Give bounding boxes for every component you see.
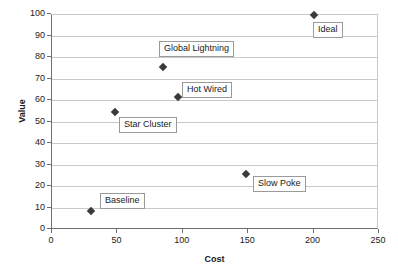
x-tick-label-100: 100 <box>162 236 202 245</box>
x-tick-label-50: 50 <box>96 236 136 245</box>
data-point-label: Star Cluster <box>119 117 177 133</box>
y-tick-mark-20 <box>47 185 51 186</box>
y-tick-label-100: 100 <box>5 9 45 18</box>
x-tick-mark-100 <box>182 229 183 233</box>
data-point-label: Hot Wired <box>182 82 232 98</box>
gridline-y-60 <box>52 100 377 101</box>
data-point-label: Baseline <box>100 193 145 209</box>
x-tick-label-200: 200 <box>293 236 333 245</box>
gridline-y-40 <box>52 143 377 144</box>
x-tick-label-0: 0 <box>31 236 71 245</box>
y-tick-mark-100 <box>47 13 51 14</box>
x-tick-mark-200 <box>313 229 314 233</box>
y-tick-label-0: 0 <box>5 224 45 233</box>
y-tick-label-90: 90 <box>5 31 45 40</box>
y-tick-label-80: 80 <box>5 52 45 61</box>
y-tick-label-20: 20 <box>5 181 45 190</box>
y-tick-mark-30 <box>47 164 51 165</box>
x-axis-title: Cost <box>51 254 378 264</box>
y-tick-mark-70 <box>47 78 51 79</box>
y-axis-title: Value <box>17 81 27 141</box>
x-tick-mark-50 <box>116 229 117 233</box>
data-point-marker <box>111 108 119 116</box>
y-tick-mark-60 <box>47 99 51 100</box>
x-tick-mark-0 <box>51 229 52 233</box>
x-tick-mark-250 <box>378 229 379 233</box>
x-tick-mark-150 <box>247 229 248 233</box>
gridline-y-70 <box>52 79 377 80</box>
gridline-y-80 <box>52 57 377 58</box>
y-tick-label-30: 30 <box>5 160 45 169</box>
data-point-label: Ideal <box>313 22 343 38</box>
y-tick-mark-50 <box>47 121 51 122</box>
data-point-label: Slow Poke <box>253 176 306 192</box>
y-tick-mark-10 <box>47 207 51 208</box>
data-point-marker <box>241 170 249 178</box>
scatter-chart: 0102030405060708090100 050100150200250 V… <box>0 0 398 276</box>
x-tick-label-150: 150 <box>227 236 267 245</box>
y-tick-mark-80 <box>47 56 51 57</box>
gridline-y-20 <box>52 186 377 187</box>
gridline-y-50 <box>52 122 377 123</box>
data-point-marker <box>159 62 167 70</box>
x-tick-label-250: 250 <box>358 236 398 245</box>
y-tick-label-10: 10 <box>5 203 45 212</box>
data-point-label: Global Lightning <box>159 41 234 57</box>
gridline-y-100 <box>52 14 377 15</box>
y-tick-mark-90 <box>47 35 51 36</box>
data-point-marker <box>309 11 317 19</box>
y-tick-mark-40 <box>47 142 51 143</box>
gridline-y-30 <box>52 165 377 166</box>
